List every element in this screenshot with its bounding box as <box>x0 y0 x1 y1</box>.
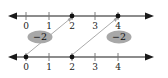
top-tick-label-4: 4 <box>115 21 121 31</box>
bottom-number-line: 0 1 2 3 4 <box>8 53 154 72</box>
top-right-arrowhead-icon <box>145 12 154 19</box>
bottom-point-2 <box>70 55 75 60</box>
bottom-tick-label-1: 1 <box>46 62 52 72</box>
diagram-canvas: 0 1 2 3 4 0 1 2 3 4 <box>0 0 168 78</box>
oval-label-left-text: −2 <box>33 31 47 42</box>
bottom-right-arrowhead-icon <box>145 53 154 60</box>
bottom-tick-label-3: 3 <box>92 62 98 72</box>
oval-label-right-text: −2 <box>112 31 126 42</box>
bottom-point-0 <box>24 55 29 60</box>
top-point-4 <box>116 14 121 19</box>
bottom-tick-label-4: 4 <box>115 62 121 72</box>
top-tick-label-1: 1 <box>46 21 52 31</box>
number-line-mapping-diagram: 0 1 2 3 4 0 1 2 3 4 <box>0 0 168 78</box>
bottom-tick-label-0: 0 <box>23 62 29 72</box>
top-point-2 <box>70 14 75 19</box>
bottom-tick-label-2: 2 <box>69 62 75 72</box>
top-left-arrowhead-icon <box>8 12 17 19</box>
top-tick-label-3: 3 <box>92 21 98 31</box>
operation-label-right: −2 <box>107 31 132 44</box>
bottom-left-arrowhead-icon <box>8 53 17 60</box>
top-number-line: 0 1 2 3 4 <box>8 12 154 31</box>
top-tick-label-0: 0 <box>23 21 29 31</box>
operation-label-left: −2 <box>28 31 53 44</box>
top-tick-label-2: 2 <box>69 21 75 31</box>
